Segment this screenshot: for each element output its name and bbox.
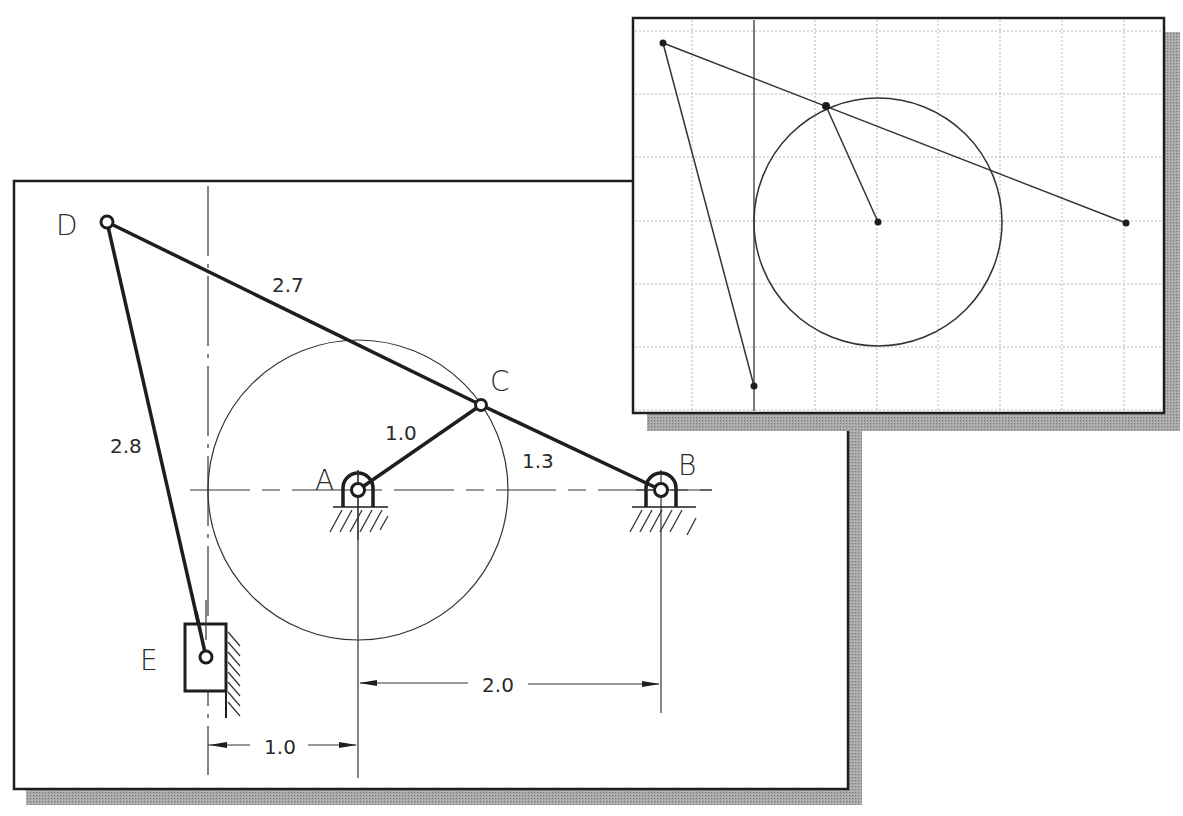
length-cb: 1.3: [522, 449, 554, 473]
label-c: C: [490, 365, 510, 398]
length-de: 2.8: [110, 434, 142, 458]
inset-point-d: [660, 40, 667, 47]
diagram-canvas: 2.0 1.0 D C A B E 2.7 2.8 1.0 1.3: [0, 0, 1183, 816]
label-a: A: [315, 464, 334, 497]
inset-point-a: [875, 219, 882, 226]
length-ac: 1.0: [385, 421, 417, 445]
inset-point-c: [822, 102, 830, 110]
inset-view-frame: [633, 18, 1164, 413]
label-b: B: [678, 449, 696, 482]
dimension-a-to-b-label: 2.0: [482, 673, 514, 697]
length-dc: 2.7: [272, 273, 304, 297]
label-e: E: [140, 644, 158, 677]
joint-d: [101, 216, 113, 228]
inset-point-e: [751, 383, 758, 390]
inset-view: [633, 18, 1180, 431]
joint-c: [476, 400, 487, 411]
dimension-e-to-a-label: 1.0: [264, 735, 296, 759]
inset-point-b: [1123, 220, 1130, 227]
label-d: D: [56, 209, 78, 242]
